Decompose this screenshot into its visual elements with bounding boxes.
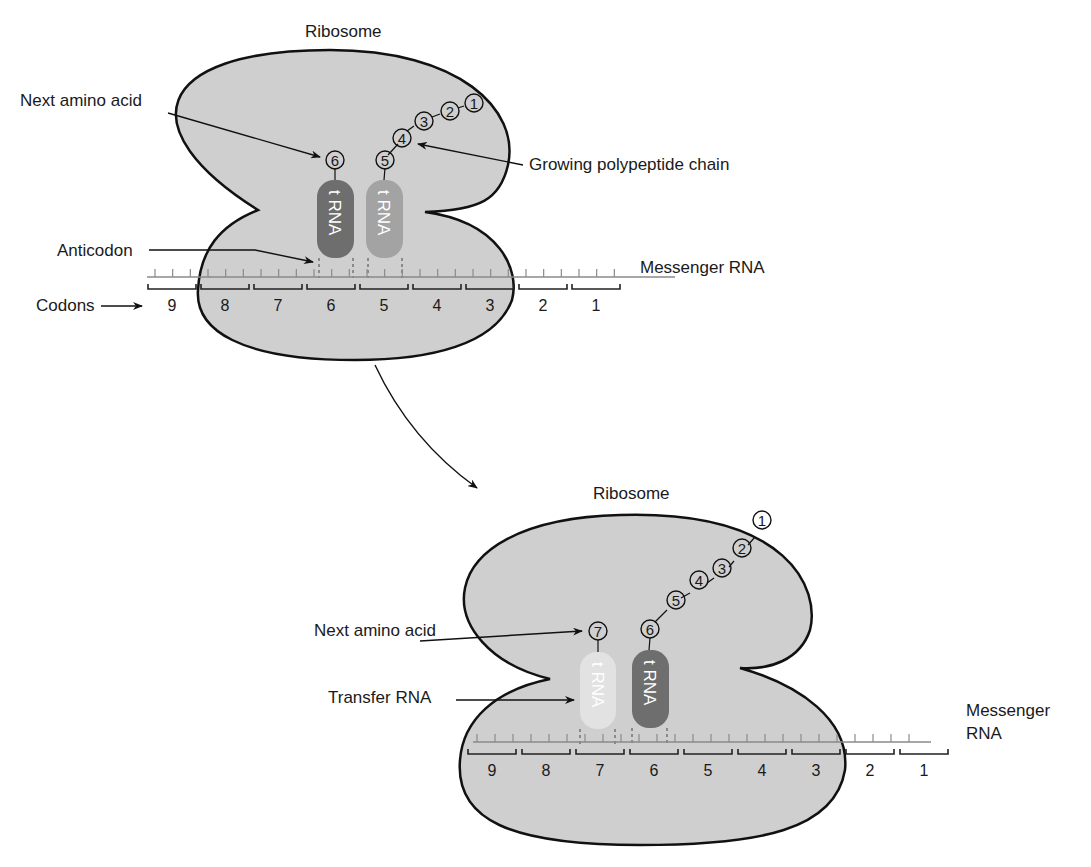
codon-number: 1 bbox=[920, 762, 929, 779]
trna-label: t RNA bbox=[325, 190, 344, 236]
label-transfer-rna: Transfer RNA bbox=[328, 688, 432, 707]
label-messenger-rna-bottom-line1: Messenger bbox=[966, 701, 1050, 720]
amino-acid-3: 3 bbox=[718, 560, 726, 577]
top-panel: Ribosome t RNA t RNA 6 5 bbox=[20, 22, 765, 360]
codon-number: 4 bbox=[433, 297, 442, 314]
label-growing-chain: Growing polypeptide chain bbox=[529, 155, 729, 174]
trna-label: t RNA bbox=[640, 660, 659, 706]
trna-right-top: t RNA bbox=[366, 180, 403, 258]
amino-acid-7: 7 bbox=[594, 623, 602, 640]
codon-number: 6 bbox=[650, 762, 659, 779]
label-messenger-rna-bottom-line2: RNA bbox=[966, 724, 1003, 743]
amino-acid-5: 5 bbox=[672, 592, 680, 609]
amino-acid-3: 3 bbox=[420, 113, 428, 130]
codon-number: 7 bbox=[596, 762, 605, 779]
trna-left-bottom: t RNA bbox=[580, 652, 616, 729]
label-codons: Codons bbox=[36, 296, 95, 315]
codon-number: 4 bbox=[758, 762, 767, 779]
amino-acid-2: 2 bbox=[446, 103, 454, 120]
label-messenger-rna-top: Messenger RNA bbox=[640, 258, 765, 277]
ribosome-title-top: Ribosome bbox=[305, 22, 382, 41]
codon-number: 2 bbox=[866, 762, 875, 779]
amino-acid-4: 4 bbox=[695, 572, 703, 589]
trna-label: t RNA bbox=[588, 662, 607, 708]
codon-number: 9 bbox=[168, 297, 177, 314]
ribosome-title-bottom: Ribosome bbox=[593, 484, 670, 503]
label-next-amino-acid-top: Next amino acid bbox=[20, 91, 142, 110]
codon-number: 5 bbox=[704, 762, 713, 779]
codon-number: 2 bbox=[539, 297, 548, 314]
codon-number: 9 bbox=[488, 762, 497, 779]
amino-acid-2: 2 bbox=[738, 540, 746, 557]
trna-right-bottom: t RNA bbox=[632, 650, 669, 728]
codon-number: 8 bbox=[221, 297, 230, 314]
codon-number: 8 bbox=[542, 762, 551, 779]
codon-number: 6 bbox=[327, 297, 336, 314]
codon-number: 5 bbox=[380, 297, 389, 314]
trna-left-top: t RNA bbox=[317, 180, 354, 258]
amino-acid-5: 5 bbox=[381, 152, 389, 169]
label-next-amino-acid-bottom: Next amino acid bbox=[314, 621, 436, 640]
trna-label: t RNA bbox=[374, 190, 393, 236]
translation-diagram: Ribosome t RNA t RNA 6 5 bbox=[0, 0, 1091, 867]
codon-number: 7 bbox=[274, 297, 283, 314]
bottom-panel: Ribosome t RNA t RNA 7 6 5 bbox=[314, 484, 1050, 845]
amino-acid-1: 1 bbox=[758, 512, 766, 529]
codon-number: 3 bbox=[812, 762, 821, 779]
amino-acid-6: 6 bbox=[331, 152, 339, 169]
label-anticodon: Anticodon bbox=[57, 241, 133, 260]
amino-acid-6: 6 bbox=[646, 621, 654, 638]
amino-acid-1: 1 bbox=[470, 95, 478, 112]
transition-arrow bbox=[375, 365, 477, 488]
amino-acid-4: 4 bbox=[398, 130, 406, 147]
codon-number: 1 bbox=[592, 297, 601, 314]
codon-number: 3 bbox=[486, 297, 495, 314]
